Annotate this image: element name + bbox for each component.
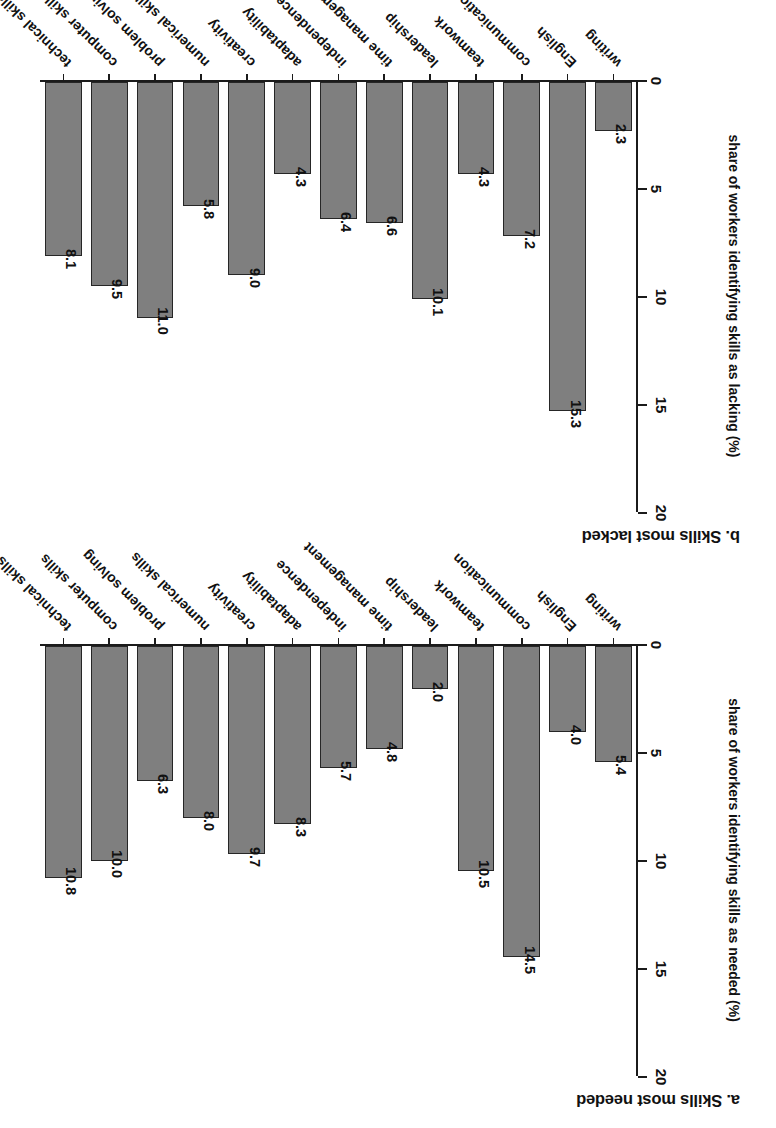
- bar: 6.4: [320, 82, 357, 220]
- bar-value-label: 10.5: [476, 860, 492, 888]
- category-tick: [200, 638, 202, 646]
- bar-group: 8.1technical skills: [45, 82, 82, 512]
- category-tick: [246, 638, 248, 646]
- category-tick: [200, 74, 202, 82]
- bar-group: 9.5computer skills: [91, 82, 128, 512]
- category-label: technical skills: [0, 553, 75, 635]
- bar: 10.8: [45, 646, 82, 878]
- bar-value-label: 9.7: [247, 847, 263, 867]
- category-label: English: [532, 588, 579, 635]
- panel-b-title: b. Skills most lacked: [582, 527, 740, 546]
- category-tick: [429, 74, 431, 82]
- bar-value-label: 9.0: [247, 268, 263, 288]
- panel-b-y-tick-label: 20: [653, 504, 670, 521]
- bar-value-label: 4.3: [476, 167, 492, 187]
- bar-group: 9.0creativity: [228, 82, 265, 512]
- bar-group: 2.0leadership: [412, 646, 449, 1076]
- bar: 6.3: [137, 646, 174, 781]
- bar: 11.0: [137, 82, 174, 319]
- panel-a-y-tick-label: 20: [653, 1068, 670, 1085]
- bar-group: 8.0numerical skills: [183, 646, 220, 1076]
- bar-group: 6.3problem solving: [137, 646, 174, 1076]
- category-tick: [521, 638, 523, 646]
- figure-rotator: a. Skills most needed share of workers i…: [0, 0, 776, 1128]
- panel-a-y-tick-label: 5: [649, 749, 666, 757]
- bar: 5.8: [183, 82, 220, 207]
- bar-value-label: 6.3: [155, 774, 171, 794]
- bar: 8.3: [274, 646, 311, 824]
- bar: 4.0: [549, 646, 586, 732]
- bar-group: 8.3adaptability: [274, 646, 311, 1076]
- bar-value-label: 10.0: [109, 849, 125, 877]
- panel-b-bars: 2.3writing15.3English7.2communication4.3…: [40, 82, 636, 512]
- bar-value-label: 6.6: [384, 216, 400, 236]
- bar-value-label: 5.7: [338, 761, 354, 781]
- panel-b-y-tick-label: 10: [653, 288, 670, 305]
- panel-a-y-tick-label: 15: [653, 960, 670, 977]
- panel-a-y-tick: 0: [638, 644, 647, 646]
- bar: 4.3: [458, 82, 495, 174]
- panel-a-y-tick: 10: [638, 860, 647, 862]
- bar: 8.1: [45, 82, 82, 256]
- bar-group: 9.7creativity: [228, 646, 265, 1076]
- category-label: writing: [581, 27, 625, 71]
- bar-group: 10.8technical skills: [45, 646, 82, 1076]
- bar: 10.1: [412, 82, 449, 299]
- bar-value-label: 15.3: [568, 399, 584, 427]
- bar-group: 5.4writing: [595, 646, 632, 1076]
- bar: 6.6: [366, 82, 403, 224]
- category-label: writing: [581, 591, 625, 635]
- category-tick: [154, 74, 156, 82]
- bar-group: 4.0English: [549, 646, 586, 1076]
- category-tick: [246, 74, 248, 82]
- category-tick: [567, 638, 569, 646]
- bar-value-label: 8.1: [63, 249, 79, 269]
- panel-b-y-tick: 20: [638, 512, 647, 514]
- panel-b-y-tick-label: 15: [653, 396, 670, 413]
- panel-b-y-tick: 0: [638, 80, 647, 82]
- bar: 5.7: [320, 646, 357, 769]
- category-tick: [475, 74, 477, 82]
- bar-value-label: 10.8: [63, 867, 79, 895]
- category-tick: [475, 638, 477, 646]
- bar: 4.3: [274, 82, 311, 174]
- bar-group: 10.0computer skills: [91, 646, 128, 1076]
- category-tick: [338, 638, 340, 646]
- chart-panel-a: a. Skills most needed share of workers i…: [0, 564, 776, 1128]
- panel-a-y-axis-label: share of workers identifying skills as n…: [726, 698, 742, 1022]
- bar: 8.0: [183, 646, 220, 818]
- category-tick: [567, 74, 569, 82]
- category-tick: [292, 638, 294, 646]
- bar: 9.7: [228, 646, 265, 855]
- category-tick: [292, 74, 294, 82]
- bar: 15.3: [549, 82, 586, 411]
- bar: 9.0: [228, 82, 265, 276]
- bar-value-label: 11.0: [155, 307, 171, 334]
- bar-group: 10.5teamwork: [458, 646, 495, 1076]
- panel-b-plot-area: share of workers identifying skills as l…: [40, 80, 638, 512]
- category-tick: [383, 638, 385, 646]
- category-label: English: [532, 24, 579, 71]
- panel-a-y-tick-label: 0: [649, 641, 666, 649]
- category-tick: [63, 638, 65, 646]
- bar-group: 11.0problem solving: [137, 82, 174, 512]
- bar-group: 10.1leadership: [412, 82, 449, 512]
- category-tick: [154, 638, 156, 646]
- panel-a-y-tick: 5: [638, 752, 647, 754]
- panel-a-y-tick-label: 10: [653, 852, 670, 869]
- panel-a-title: a. Skills most needed: [576, 1091, 740, 1110]
- bar-group: 4.8time management: [366, 646, 403, 1076]
- panel-a-bars: 5.4writing4.0English14.5communication10.…: [40, 646, 636, 1076]
- bar: 2.3: [595, 82, 632, 131]
- bar: 4.8: [366, 646, 403, 749]
- bar: 10.5: [458, 646, 495, 872]
- panel-b-y-axis-label: share of workers identifying skills as l…: [726, 135, 742, 458]
- panel-b-y-tick: 15: [638, 404, 647, 406]
- bar-value-label: 6.4: [338, 212, 354, 232]
- category-tick: [338, 74, 340, 82]
- bar-group: 5.7independence: [320, 646, 357, 1076]
- bar: 5.4: [595, 646, 632, 762]
- bar-group: 2.3writing: [595, 82, 632, 512]
- bar-value-label: 10.1: [430, 288, 446, 316]
- panel-a-y-tick: 20: [638, 1076, 647, 1078]
